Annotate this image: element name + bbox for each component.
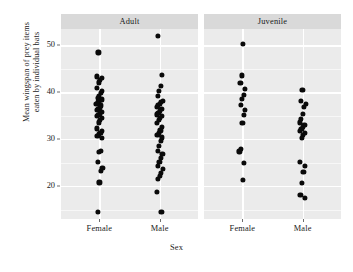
data-point	[303, 195, 308, 200]
y-tick-mark-30	[57, 139, 60, 140]
y-tick-mark-40	[57, 92, 60, 93]
x-tick-mark-juvenile-female	[242, 219, 243, 222]
gridline-major-y-20	[204, 186, 341, 187]
y-axis-tick-labels: 20304050	[33, 0, 55, 272]
gridline-major-y-50	[61, 45, 198, 46]
gridline-major-y-30	[204, 139, 341, 140]
y-tick-label-20: 20	[33, 182, 55, 190]
data-point	[300, 87, 305, 92]
gridline-major-y-30	[61, 139, 198, 140]
x-tick-label-adult-female: Female	[69, 224, 129, 233]
y-axis-title-line1: Mean wingspan of prey items	[22, 22, 33, 122]
gridline-minor-y-45	[204, 69, 341, 70]
data-point	[241, 112, 246, 117]
facet-strip-juvenile: Juvenile	[204, 14, 341, 29]
chart-figure: Mean wingspan of prey items eaten by ind…	[0, 0, 353, 272]
data-point	[97, 180, 102, 185]
gridline-major-y-40	[204, 92, 341, 93]
data-point	[98, 168, 103, 173]
x-tick-mark-juvenile-male	[303, 219, 304, 222]
data-point	[239, 96, 244, 101]
x-tick-label-juvenile-female: Female	[212, 224, 272, 233]
x-tick-mark-adult-female	[99, 219, 100, 222]
x-tick-label-adult-male: Male	[130, 224, 190, 233]
data-point	[97, 149, 102, 154]
gridline-minor-y-35	[61, 116, 198, 117]
plot-area-adult	[61, 29, 198, 219]
data-point	[159, 209, 164, 214]
gridline-minor-y-35	[204, 116, 341, 117]
data-point	[160, 72, 165, 77]
data-point	[154, 189, 159, 194]
data-point	[240, 121, 245, 126]
gridline-major-y-40	[61, 92, 198, 93]
facet-strip-adult: Adult	[61, 14, 198, 29]
x-axis-title: Sex	[0, 243, 353, 252]
gridline-minor-y-25	[61, 163, 198, 164]
y-tick-label-50: 50	[33, 41, 55, 49]
y-tick-mark-20	[57, 186, 60, 187]
data-point	[302, 163, 307, 168]
data-point	[242, 86, 247, 91]
y-tick-mark-50	[57, 45, 60, 46]
plot-area-juvenile	[204, 29, 341, 219]
facet-panel-adult: Adult	[61, 14, 198, 219]
data-point	[237, 149, 242, 154]
data-point	[242, 161, 247, 166]
gridline-minor-y-15	[61, 210, 198, 211]
y-tick-label-40: 40	[33, 88, 55, 96]
facet-strip-label-adult: Adult	[119, 17, 139, 26]
x-tick-mark-adult-male	[160, 219, 161, 222]
data-point	[302, 104, 307, 109]
data-point	[239, 73, 244, 78]
y-tick-label-30: 30	[33, 135, 55, 143]
facet-panel-juvenile: Juvenile	[204, 14, 341, 219]
x-tick-label-juvenile-male: Male	[273, 224, 333, 233]
facet-strip-label-juvenile: Juvenile	[258, 17, 288, 26]
data-point	[240, 177, 245, 182]
gridline-major-y-50	[204, 45, 341, 46]
gridline-major-y-20	[61, 186, 198, 187]
gridline-minor-y-15	[204, 210, 341, 211]
gridline-minor-y-45	[61, 69, 198, 70]
gridline-minor-y-25	[204, 163, 341, 164]
data-point	[301, 169, 306, 174]
